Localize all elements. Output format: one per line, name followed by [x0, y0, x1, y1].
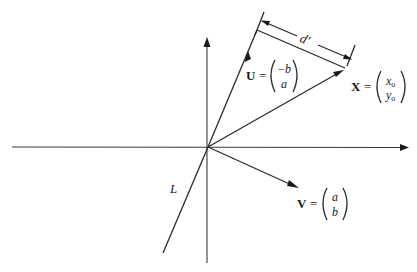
- vector-V: [208, 147, 299, 188]
- label-U-bottom: a: [281, 77, 287, 91]
- vector-X: [208, 70, 344, 147]
- equals-sign: =: [310, 196, 317, 211]
- label-d-prime: d′: [298, 30, 312, 47]
- label-X: X = xo yo: [351, 71, 405, 103]
- arrow-up-icon: [204, 37, 211, 47]
- label-U: U = −b a: [246, 60, 297, 92]
- equals-sign: =: [364, 79, 371, 94]
- right-paren: [401, 71, 405, 103]
- vector-diagram: d′ U = −b a X = xo yo V = a b L: [0, 0, 417, 272]
- label-V: V = a b: [297, 188, 347, 220]
- subscript: o: [391, 80, 395, 89]
- subscript: o: [391, 94, 395, 103]
- label-U-top: −b: [277, 62, 291, 76]
- svg-text:xo: xo: [385, 74, 395, 89]
- arrow-icon: [287, 180, 299, 188]
- label-U-name: U: [246, 68, 256, 83]
- line-L: [163, 147, 208, 253]
- left-paren: [323, 188, 327, 220]
- dimension-d: d′: [255, 12, 355, 66]
- label-X-name: X: [351, 79, 361, 94]
- arrow-right-icon: [400, 144, 409, 151]
- dimension-tick-right: [347, 45, 355, 66]
- vector-U: [208, 30, 257, 147]
- equals-sign: =: [259, 68, 266, 83]
- label-L: L: [169, 181, 177, 196]
- right-paren: [293, 60, 297, 92]
- label-V-bottom: b: [332, 205, 338, 219]
- label-V-name: V: [297, 196, 307, 211]
- left-paren: [271, 60, 275, 92]
- left-paren: [377, 71, 381, 103]
- arrow-icon: [333, 70, 344, 77]
- svg-text:yo: yo: [385, 88, 395, 103]
- arrow-left-icon: [261, 21, 270, 27]
- label-V-top: a: [332, 190, 338, 204]
- right-paren: [343, 188, 347, 220]
